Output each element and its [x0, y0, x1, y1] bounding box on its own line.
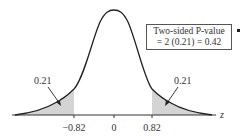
- p-value-annotation-box: Two-sided P-value = 2 (0.21) = 0.42: [146, 24, 232, 50]
- right-tail-label: 0.21: [174, 75, 192, 86]
- left-tail-shade: [15, 89, 74, 115]
- tick-label-left: −0.82: [62, 122, 85, 133]
- axis-label-z: z: [219, 109, 224, 120]
- annotation-line-2: = 2 (0.21) = 0.42: [147, 37, 231, 48]
- right-tail-arrow: [167, 87, 178, 103]
- normal-curve-chart: −0.82 0 0.82 z 0.21 0.21: [0, 0, 240, 138]
- tick-label-center: 0: [112, 122, 117, 133]
- annotation-line-1: Two-sided P-value: [147, 26, 231, 37]
- right-tail-shade: [152, 89, 212, 115]
- edge-mark: [237, 29, 240, 32]
- left-tail-label: 0.21: [34, 75, 52, 86]
- tick-label-right: 0.82: [143, 122, 161, 133]
- left-tail-arrow: [48, 87, 60, 104]
